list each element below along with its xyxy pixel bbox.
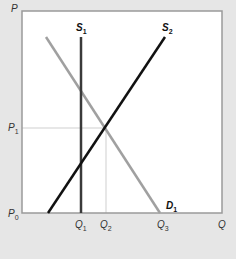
y-axis-label: P <box>11 3 18 14</box>
s1-curve-label: S1 <box>76 22 87 35</box>
x-axis-label: Q <box>218 219 226 230</box>
s2-curve-label: S2 <box>162 22 173 35</box>
q2-tick-label: Q2 <box>100 219 112 232</box>
d1-curve-label: D1 <box>166 200 177 213</box>
q1-tick-label: Q1 <box>75 219 87 232</box>
p1-tick-label: P1 <box>8 122 19 135</box>
p0-tick-label: P0 <box>8 208 19 221</box>
supply-demand-diagram <box>0 0 236 259</box>
plot-area <box>22 11 222 213</box>
q3-tick-label: Q3 <box>157 219 169 232</box>
